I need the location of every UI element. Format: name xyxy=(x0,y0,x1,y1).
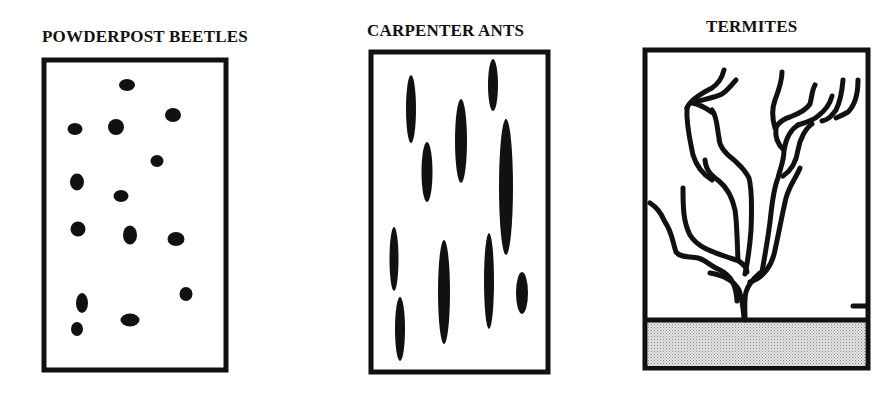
panel-carpenter-ants xyxy=(371,52,548,372)
panel-termites xyxy=(645,50,868,368)
soil-band xyxy=(648,322,865,366)
diagram-artwork xyxy=(0,0,878,398)
panel-powderpost-beetles xyxy=(44,60,226,370)
